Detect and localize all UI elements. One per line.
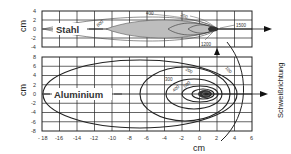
svg-text:-2: -2 [31, 35, 36, 41]
svg-text:-14: -14 [73, 135, 81, 141]
svg-text:-2: -2 [179, 135, 184, 141]
svg-text:-4: -4 [162, 135, 167, 141]
svg-text:4: 4 [33, 72, 36, 78]
svg-text:4: 4 [233, 135, 236, 141]
svg-text:2: 2 [33, 82, 36, 88]
x-axis-ticks: - 18 -16 -14 -12 -10 -8 -6 -4 -2 0 2 4 6 [38, 135, 253, 141]
svg-text:-2: -2 [31, 100, 36, 106]
material-label-steel: Stahl [56, 24, 79, 35]
svg-text:4: 4 [33, 8, 36, 14]
iso-label-300: 300 [165, 77, 173, 82]
welding-direction-label: Schweißrichtung [276, 63, 285, 118]
svg-text:- 18: - 18 [38, 135, 47, 141]
svg-text:-4: -4 [31, 109, 36, 115]
svg-text:6: 6 [33, 63, 36, 69]
arrow-up-icon [214, 48, 220, 55]
bottom-panel-aluminium: Aluminium 100 200 300 400 500 8 6 4 2 0 … [18, 42, 268, 141]
material-label-aluminium: Aluminium [54, 89, 103, 100]
svg-text:2: 2 [33, 17, 36, 23]
svg-text:-16: -16 [55, 135, 63, 141]
svg-text:2: 2 [215, 135, 218, 141]
iso-label-1200: 1200 [201, 42, 212, 47]
y-axis-label-bottom: cm [18, 84, 28, 96]
isotherm-600-steel [106, 20, 217, 38]
iso-label-100: 100 [224, 65, 233, 74]
svg-text:-8: -8 [31, 128, 36, 134]
svg-text:-6: -6 [144, 135, 149, 141]
svg-text:0: 0 [198, 135, 201, 141]
svg-text:6: 6 [250, 135, 253, 141]
iso-label-400: 400 [146, 11, 154, 16]
svg-text:8: 8 [33, 54, 36, 60]
iso-label-1500: 1500 [236, 23, 247, 28]
svg-text:-8: -8 [127, 135, 132, 141]
svg-text:0: 0 [33, 91, 36, 97]
top-panel-steel: Stahl 400 200 600 1500 1200 4 2 0 -2 -4 … [18, 8, 272, 50]
iso-label-400: 400 [171, 84, 180, 93]
arrow-right-icon [260, 91, 268, 97]
svg-text:-12: -12 [90, 135, 98, 141]
svg-text:-10: -10 [108, 135, 116, 141]
arrow-right-icon [264, 26, 272, 32]
isotherm-diagram: Stahl 400 200 600 1500 1200 4 2 0 -2 -4 … [0, 0, 291, 154]
svg-text:0: 0 [33, 26, 36, 32]
y-axis-label-top: cm [18, 20, 28, 32]
x-axis-label: cm [193, 143, 205, 153]
svg-text:-6: -6 [31, 119, 36, 125]
svg-text:-4: -4 [31, 44, 36, 50]
